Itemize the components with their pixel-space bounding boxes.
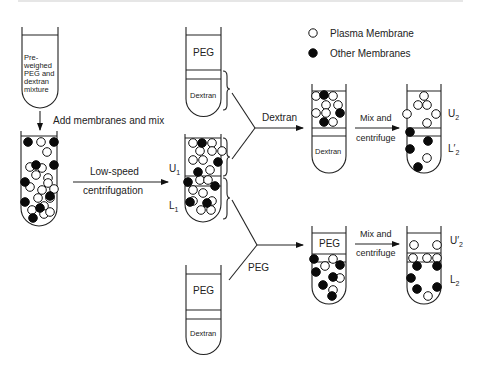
other-membrane-circle — [406, 128, 415, 137]
brace-icon — [223, 178, 230, 219]
peg-branch-label: PEG — [248, 262, 269, 273]
other-membrane-circle — [214, 158, 223, 167]
plasma-membrane-circle — [321, 262, 330, 271]
other-membrane-circle — [336, 261, 345, 270]
other-membrane-circle — [50, 161, 59, 170]
plasma-membrane-circle — [206, 166, 215, 175]
plasma-membrane-circle — [433, 254, 442, 263]
plasma-membrane-circle — [204, 176, 213, 185]
plasma-membrane-circle — [322, 109, 331, 118]
other-membrane-circle — [194, 168, 203, 177]
peg-phase-label: PEG — [193, 285, 214, 296]
plasma-membrane-circle — [199, 156, 208, 165]
centrifuge-label: centrifuge — [356, 133, 396, 143]
other-membrane-circle — [319, 281, 328, 290]
other-membrane-circle — [414, 163, 423, 172]
plasma-membrane-circle — [28, 206, 37, 215]
plasma-membrane-circle — [208, 139, 217, 148]
legend-other-label: Other Membranes — [330, 48, 411, 59]
plasma-membrane-circle — [46, 208, 55, 217]
plasma-membrane-circle — [409, 254, 418, 263]
l2-label: L2 — [450, 274, 460, 287]
tube-upper-result: U2 L′2 — [403, 84, 460, 173]
other-membrane-circle — [413, 262, 422, 271]
tube-separated: U1 L1 — [169, 134, 230, 222]
dextran-phase-label: Dextran — [190, 329, 216, 338]
centrifugation-label: centrifugation — [83, 185, 143, 196]
other-membrane-circle — [32, 161, 41, 170]
filled-circle-icon — [309, 49, 317, 57]
plasma-membrane-circle — [423, 119, 432, 128]
other-membrane-circle — [21, 198, 30, 207]
other-membrane-circle — [198, 139, 207, 148]
other-membrane-circle — [186, 198, 195, 207]
plasma-membrane-circle — [414, 101, 423, 110]
other-membrane-circle — [36, 204, 45, 213]
u2-prime-label: U′2 — [450, 235, 463, 248]
plasma-membrane-circle — [189, 139, 198, 148]
plasma-membrane-circle — [189, 186, 198, 195]
plasma-membrane-circle — [403, 110, 412, 119]
plasma-membrane-circle — [424, 292, 433, 301]
plasma-membrane-circle — [312, 109, 321, 118]
open-circle-icon — [309, 29, 317, 37]
other-membrane-circle — [203, 199, 212, 208]
other-membrane-circle — [329, 273, 338, 282]
tube-upper-with-dextran: Dextran — [312, 84, 346, 173]
other-membrane-circle — [24, 138, 33, 147]
plasma-membrane-circle — [322, 101, 331, 110]
plasma-membrane-circle — [196, 176, 205, 185]
branch-line — [232, 128, 255, 159]
other-membrane-circle — [413, 285, 422, 294]
other-membrane-circle — [320, 91, 329, 100]
plasma-membrane-circle — [199, 189, 208, 198]
u1-label: U1 — [169, 163, 180, 176]
other-membrane-circle — [46, 192, 55, 201]
other-membrane-circle — [50, 138, 59, 147]
centrifuge-label: centrifuge — [356, 248, 396, 258]
other-membrane-circle — [184, 178, 193, 187]
other-membrane-circle — [433, 262, 442, 271]
brace-icon — [223, 138, 230, 176]
other-membrane-circle — [336, 109, 345, 118]
plasma-membrane-circle — [423, 154, 432, 163]
other-membrane-circle — [21, 178, 30, 187]
other-membrane-circle — [29, 214, 38, 223]
plasma-membrane-circle — [196, 147, 205, 156]
other-membrane-circle — [407, 274, 416, 283]
peg-phase-label: PEG — [193, 47, 214, 58]
tube-lower-result: U′2 L2 — [407, 226, 463, 304]
plasma-membrane-circle — [433, 241, 442, 250]
peg-phase-label: PEG — [319, 238, 340, 249]
plasma-membrane-circle — [189, 156, 198, 165]
plasma-membrane-circle — [423, 254, 432, 263]
other-membrane-circle — [312, 268, 321, 277]
plasma-membrane-circle — [423, 101, 432, 110]
dextran-phase-label: Dextran — [190, 91, 216, 100]
plasma-membrane-circle — [420, 92, 429, 101]
tube-peg-dextran-bottom: PEG Dextran — [186, 265, 221, 355]
tube-peg-dextran-top: PEG Dextran — [186, 27, 230, 117]
tube-preweighed: Pre- weighed PEG and dextran mixture — [22, 27, 58, 108]
plasma-membrane-circle — [37, 138, 46, 147]
step-add-label: Add membranes and mix — [53, 115, 164, 126]
other-membrane-circle — [328, 292, 337, 301]
plasma-membrane-circle — [197, 206, 206, 215]
brace-icon — [223, 71, 230, 110]
tube-lower-with-peg: PEG — [310, 226, 346, 304]
other-membrane-circle — [433, 283, 442, 292]
other-membrane-circle — [406, 145, 415, 154]
plasma-membrane-circle — [334, 101, 343, 110]
tube1-label-line: mixture — [24, 85, 49, 94]
dextran-phase-label: Dextran — [315, 147, 341, 156]
tube-mixed — [21, 131, 59, 226]
other-membrane-circle — [424, 137, 433, 146]
plasma-membrane-circle — [43, 148, 52, 157]
other-membrane-circle — [320, 118, 329, 127]
branch-line — [232, 200, 257, 245]
low-speed-label: Low-speed — [90, 166, 139, 177]
plasma-membrane-circle — [329, 118, 338, 127]
plasma-membrane-circle — [432, 110, 441, 119]
u2-label: U2 — [448, 108, 459, 121]
branch-line — [232, 93, 255, 128]
